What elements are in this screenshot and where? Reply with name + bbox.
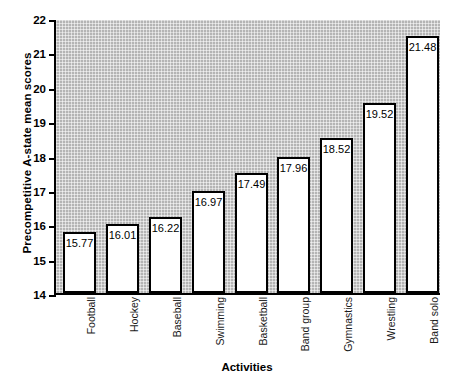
bar: 16.01 [106,224,139,293]
x-category-label: Baseball [170,297,184,359]
bar-value-label: 21.48 [408,40,437,54]
y-tick: 15 [2,261,56,262]
y-tick-label: 21 [33,46,46,62]
bar-value-label: 17.96 [279,161,308,175]
bars-layer: 15.7716.0116.2216.9717.4917.9618.5219.52… [56,20,440,293]
bar: 17.49 [235,173,268,293]
y-tick-label: 22 [33,12,46,28]
y-tick-label: 15 [33,253,46,269]
bar: 15.77 [63,232,96,293]
y-tick-mark [49,89,56,91]
bar: 16.97 [192,191,225,293]
y-tick-mark [49,192,56,194]
y-tick: 21 [2,54,56,55]
y-tick: 14 [2,295,56,296]
y-tick-label: 17 [33,184,46,200]
x-category-label: Band group [298,297,312,359]
bar-chart-figure: Precompetitive A-state mean scores 14151… [0,0,456,383]
bar: 21.48 [406,36,439,293]
x-axis-category-labels: FootballHockeyBaseballSwimmingBasketball… [54,297,440,359]
y-tick-mark [49,226,56,228]
bar-value-label: 16.01 [108,228,137,242]
bar-value-label: 16.22 [151,221,180,235]
x-category-label: Football [84,297,98,359]
y-tick-mark [49,158,56,160]
y-tick: 20 [2,89,56,90]
y-tick-mark [49,261,56,263]
y-tick-label: 19 [33,115,46,131]
x-category-label: Band solo [427,297,441,359]
y-tick: 17 [2,192,56,193]
y-tick-mark [49,54,56,56]
bar: 17.96 [277,157,310,293]
bar-value-label: 19.52 [365,107,394,121]
y-tick-label: 20 [33,81,46,97]
y-tick-label: 16 [33,218,46,234]
bar: 18.52 [320,138,353,293]
bar-value-label: 18.52 [322,142,351,156]
y-tick-mark [49,20,56,22]
bar-value-label: 15.77 [65,236,94,250]
x-category-label: Swimming [213,297,227,359]
y-tick-label: 18 [33,150,46,166]
x-category-label: Wrestling [384,297,398,359]
y-tick: 16 [2,226,56,227]
x-category-label: Gymnastics [341,297,355,359]
y-tick: 18 [2,158,56,159]
bar: 19.52 [363,103,396,293]
bar-value-label: 16.97 [194,195,223,209]
bar: 16.22 [149,217,182,293]
plot-area: 141516171819202122 15.7716.0116.2216.971… [54,20,440,295]
bar-value-label: 17.49 [237,177,266,191]
y-tick: 19 [2,123,56,124]
x-category-label: Hockey [127,297,141,359]
y-tick: 22 [2,20,56,21]
x-axis-title: Activities [54,361,440,373]
x-category-label: Basketball [256,297,270,359]
y-tick-label: 14 [33,287,46,303]
y-tick-mark [49,123,56,125]
